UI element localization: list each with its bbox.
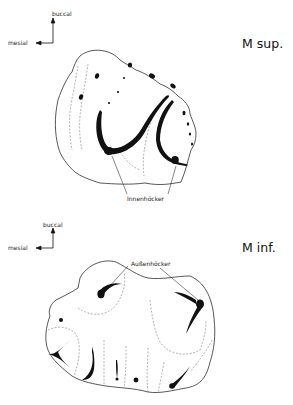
- lower-buccal-label: buccal: [43, 221, 63, 228]
- lower-mesial-label: mesial: [8, 244, 28, 251]
- lower-mesial-fissure: [48, 340, 70, 368]
- upper-buccal-label: buccal: [52, 10, 72, 17]
- lower-molar: [46, 261, 215, 393]
- upper-molar-outline: [55, 50, 196, 184]
- upper-molar: [55, 50, 196, 194]
- lower-molar-title: M inf.: [242, 240, 276, 255]
- upper-mesial-label: mesial: [8, 39, 28, 46]
- upper-annotation-innenhoecker: Innenhöcker: [127, 195, 164, 202]
- lower-orientation-arrows: [36, 228, 55, 250]
- tooth-diagram-canvas: [0, 0, 293, 405]
- lower-annotation-aussenhoecker: Außenhöcker: [131, 260, 170, 267]
- upper-cusp-crest-distal: [156, 100, 188, 166]
- upper-orientation-arrows: [36, 18, 55, 45]
- upper-molar-title: M sup.: [242, 36, 283, 51]
